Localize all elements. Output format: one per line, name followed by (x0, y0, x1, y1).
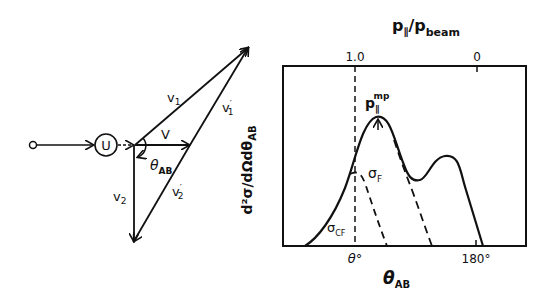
projectile-dot-icon (30, 142, 37, 149)
theta-ab-label: θAB (150, 157, 173, 176)
v1-prime-vector (190, 48, 248, 145)
v1-vector (135, 48, 248, 145)
top-tick-0: 0 (473, 50, 481, 64)
diagram-canvas: U v1 v′1 V θAB v2 v′2 d²σ/dΩdθAB p∥/pbea… (0, 0, 553, 300)
y-axis-label: d²σ/dΩdθAB (239, 125, 258, 214)
V-label: V (161, 127, 170, 142)
bottom-tick-180: 180° (462, 252, 491, 266)
cross-section-chart: d²σ/dΩdθAB p∥/pbeam 1.0 0 p∥mp σF σCF θ°… (239, 16, 526, 290)
v1-label: v1 (167, 90, 180, 107)
x-axis-label: θAB (383, 268, 410, 290)
chart-frame (283, 66, 526, 246)
velocity-vector-diagram: U v1 v′1 V θAB v2 v′2 (30, 48, 249, 241)
top-axis-label: p∥/pbeam (392, 16, 460, 39)
sigma-cf-label: σCF (327, 220, 346, 238)
v1-prime-label: v′1 (222, 99, 233, 117)
bottom-tick-theta: θ° (348, 251, 362, 266)
top-tick-1: 1.0 (345, 50, 364, 64)
nucleus-label: U (101, 138, 111, 153)
v2-prime-label: v′2 (172, 183, 183, 201)
peak-label: p∥mp (365, 91, 390, 114)
sigma-f-label: σF (368, 165, 382, 184)
sigma-cf-dashed-curve (394, 140, 432, 246)
v2-label: v2 (113, 189, 126, 206)
